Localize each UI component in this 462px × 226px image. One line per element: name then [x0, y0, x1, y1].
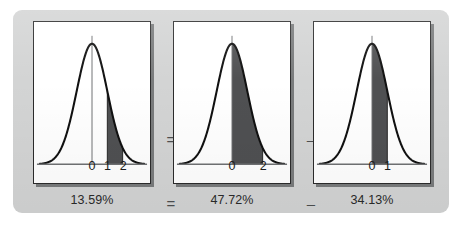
normal-distribution-chart-3	[314, 22, 430, 183]
normal-curve-panel-1: 012 13.59%	[33, 10, 151, 213]
area-percentage-3: 34.13%	[313, 193, 431, 207]
normal-distribution-chart-1	[34, 22, 150, 183]
chart-panel-3	[313, 21, 431, 184]
chart-panel-2	[173, 21, 291, 184]
shaded-area	[232, 44, 263, 165]
figure-frame: 012 13.59% = = 02 47.72% – – 01 34.13%	[13, 10, 449, 213]
normal-distribution-chart-2	[174, 22, 290, 183]
area-percentage-1: 13.59%	[33, 193, 151, 207]
normal-curve-panel-3: 01 34.13%	[313, 10, 431, 213]
area-percentage-2: 47.72%	[173, 193, 291, 207]
normal-curve-panel-2: 02 47.72%	[173, 10, 291, 213]
shaded-area	[372, 44, 387, 165]
chart-panel-1	[33, 21, 151, 184]
